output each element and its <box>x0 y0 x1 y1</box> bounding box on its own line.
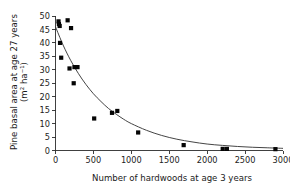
data-point <box>58 24 62 28</box>
scatter-plot: 050010001500200025003000 051015202530354… <box>0 0 290 186</box>
data-point <box>273 147 277 151</box>
data-point <box>182 143 186 147</box>
y-axis-tick-labels: 05101520253035404550 <box>40 11 50 156</box>
x-tick-label: 0 <box>53 155 58 165</box>
y-tick-label: 25 <box>40 78 50 88</box>
x-tick-label: 3000 <box>273 155 290 165</box>
x-tick-label: 2000 <box>197 155 218 165</box>
chart-figure: 050010001500200025003000 051015202530354… <box>0 0 290 186</box>
y-axis-title-line1: Pine basal area at age 27 years <box>9 14 19 150</box>
y-tick-label: 50 <box>40 11 50 21</box>
y-tick-label: 40 <box>40 38 50 48</box>
data-point <box>92 116 96 120</box>
data-point <box>225 147 229 151</box>
x-axis-tick-marks <box>56 151 284 154</box>
data-point-series <box>56 18 277 151</box>
y-tick-label: 30 <box>40 65 50 75</box>
x-axis-tick-labels: 050010001500200025003000 <box>53 155 290 165</box>
y-tick-label: 15 <box>40 105 50 115</box>
y-tick-label: 0 <box>45 146 50 156</box>
data-point <box>67 66 71 70</box>
data-point <box>72 81 76 85</box>
y-tick-label: 35 <box>40 51 50 61</box>
x-tick-label: 500 <box>86 155 102 165</box>
axis-spines <box>56 16 284 151</box>
data-point <box>110 111 114 115</box>
data-point <box>66 18 70 22</box>
x-tick-label: 1500 <box>159 155 180 165</box>
y-tick-label: 20 <box>40 92 50 102</box>
data-point <box>75 65 79 69</box>
x-tick-label: 2500 <box>235 155 256 165</box>
data-point <box>58 41 62 45</box>
data-point <box>69 26 73 30</box>
fitted-curve <box>56 27 284 149</box>
data-point <box>115 109 119 113</box>
x-axis-title: Number of hardwoods at age 3 years <box>92 173 253 183</box>
x-tick-label: 1000 <box>121 155 142 165</box>
data-point <box>136 130 140 134</box>
y-tick-label: 45 <box>40 25 50 35</box>
data-point <box>221 147 225 151</box>
y-tick-label: 5 <box>45 132 50 142</box>
y-axis-title-line2: (m² ha⁻¹) <box>19 62 29 102</box>
y-axis-tick-marks <box>52 16 55 151</box>
data-point <box>59 56 63 60</box>
y-tick-label: 10 <box>40 119 50 129</box>
